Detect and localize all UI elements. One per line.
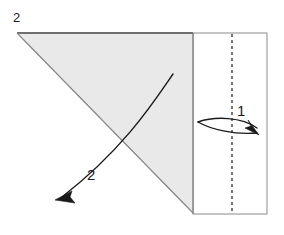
right-rectangle-panel	[193, 33, 267, 214]
step-2-label: 2	[87, 166, 95, 183]
origami-diagram: 2 1 2	[0, 0, 284, 235]
figure-number-label: 2	[13, 10, 20, 25]
origami-figure-canvas: 2 1 2	[0, 0, 284, 235]
step-1-label: 1	[237, 102, 245, 119]
